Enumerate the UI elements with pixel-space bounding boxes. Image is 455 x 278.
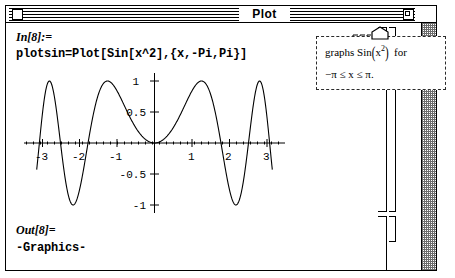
xtick-label-neg1: -1 xyxy=(109,151,123,163)
ytick-label-neg0p5: -0.5 xyxy=(120,169,146,181)
xtick-label-2: 2 xyxy=(225,151,232,163)
xtick-label-neg2: -2 xyxy=(72,151,85,163)
callout-text-post: for xyxy=(394,46,407,58)
callout-line-1: graphs Sin(x2) for xyxy=(325,44,407,58)
ytick-label-1: 1 xyxy=(132,76,139,88)
callout-line-2: −π ≤ x ≤ π. xyxy=(325,68,374,80)
input-cell-label: In[8]:= xyxy=(16,30,52,45)
output-cell-text: -Graphics- xyxy=(16,241,86,255)
callout-paren-open: ( xyxy=(372,43,376,61)
window-title-bar[interactable]: Plot xyxy=(6,6,436,23)
title-bar-stripes-left xyxy=(9,8,239,21)
xtick-label-3: 3 xyxy=(263,151,270,163)
ytick-label-0p5: 0.5 xyxy=(126,107,146,119)
input-cell-code[interactable]: plotsin=Plot[Sin[x^2],{x,-Pi,Pi}] xyxy=(16,47,247,61)
cell-bracket-output-inner[interactable] xyxy=(389,216,396,242)
ytick-label-neg1: -1 xyxy=(133,200,147,212)
zoom-box-icon[interactable] xyxy=(403,9,414,20)
cell-bracket-output-outer[interactable] xyxy=(378,216,387,270)
title-bar-stripes-right xyxy=(290,8,415,21)
annotation-callout: graphs Sin(x2) for −π ≤ x ≤ π. xyxy=(316,36,446,90)
callout-text-pre: graphs Sin xyxy=(325,46,372,58)
zoom-box-inner-square xyxy=(405,11,410,16)
window-title: Plot xyxy=(239,7,290,22)
output-cell-label: Out[8]= xyxy=(16,223,56,238)
callout-paren-close: ) xyxy=(385,43,389,61)
plot-graphic[interactable]: -3 -2 -1 1 2 3 1 0.5 -0.5 -1 xyxy=(22,67,287,215)
xtick-label-neg3: -3 xyxy=(35,151,48,163)
xtick-label-1: 1 xyxy=(188,151,195,163)
callout-pointer-icon xyxy=(371,26,389,40)
close-box-icon[interactable] xyxy=(12,9,23,20)
